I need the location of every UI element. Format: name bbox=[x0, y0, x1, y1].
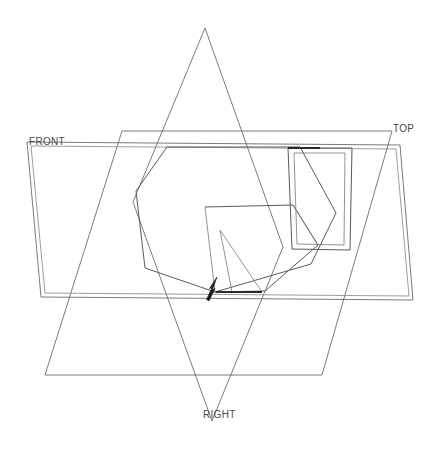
part-inner-line-1 bbox=[205, 207, 215, 292]
part-flange-outer bbox=[288, 148, 352, 250]
top-reference-plane bbox=[45, 131, 392, 375]
part-flange-inner bbox=[294, 153, 345, 245]
wireframe-svg bbox=[0, 0, 440, 450]
right-plane-outline bbox=[133, 28, 283, 421]
top-plane-label: TOP bbox=[393, 123, 414, 134]
front-plane-outline-outer bbox=[27, 142, 413, 300]
front-reference-plane bbox=[27, 142, 413, 300]
part-body-outline bbox=[136, 147, 336, 292]
front-plane-label: FRONT bbox=[29, 136, 65, 147]
direction-arrow-group bbox=[207, 277, 218, 301]
right-reference-plane bbox=[133, 28, 283, 421]
direction-arrow-icon bbox=[207, 277, 218, 301]
part-geometry bbox=[136, 147, 352, 292]
right-plane-label: RIGHT bbox=[203, 409, 236, 420]
top-plane-outline bbox=[45, 131, 392, 375]
technical-drawing-canvas: FRONT TOP RIGHT bbox=[0, 0, 440, 450]
front-plane-outline-inner bbox=[31, 146, 409, 296]
